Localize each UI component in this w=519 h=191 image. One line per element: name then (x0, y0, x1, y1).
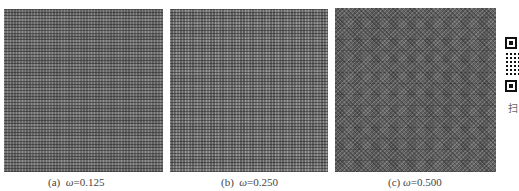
caption-c: (c) ω=0.500 (388, 176, 442, 188)
qr-finder-top (505, 37, 517, 49)
caption-b: (b) ω=0.250 (221, 176, 278, 188)
caption-a: (a) ω=0.125 (48, 176, 104, 188)
texture-panel-c (335, 8, 496, 172)
omega-symbol: ω (239, 176, 247, 188)
qr-modules (505, 52, 519, 77)
caption-c-label: (c) (388, 176, 400, 188)
qr-label: 扫 (508, 100, 518, 115)
caption-b-label: (b) (221, 176, 234, 188)
caption-a-label: (a) (48, 176, 60, 188)
caption-c-value: =0.500 (411, 176, 442, 188)
caption-b-value: =0.250 (247, 176, 278, 188)
texture-panel-a (4, 9, 163, 172)
omega-symbol: ω (403, 176, 411, 188)
texture-panel-b (170, 9, 328, 172)
caption-a-value: =0.125 (74, 176, 105, 188)
qr-finder-bottom (505, 80, 517, 92)
omega-symbol: ω (66, 176, 74, 188)
qr-code-icon (505, 37, 519, 95)
